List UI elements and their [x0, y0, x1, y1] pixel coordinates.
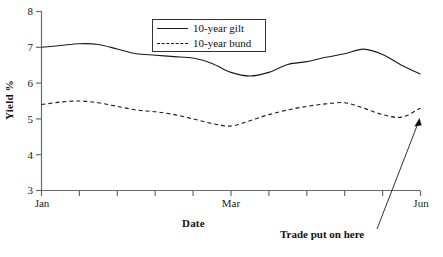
y-tick-label-8: 8 [19, 6, 33, 17]
y-tick-label-5: 5 [19, 114, 33, 125]
x-axis-ticks [42, 191, 421, 197]
chart-container: 8 7 6 5 4 3 Jan Mar Jun Yield % Date 10-… [0, 0, 443, 257]
y-tick-label-7: 7 [19, 42, 33, 53]
legend-label-10-year-gilt: 10-year gilt [193, 23, 244, 34]
annotation-label-trade-put-on-here: Trade put on here [280, 228, 364, 240]
y-tick-label-3: 3 [19, 185, 33, 196]
legend-item-10-year-bund: 10-year bund [157, 36, 251, 51]
x-tick-label-jun: Jun [407, 198, 435, 209]
y-axis-ticks [36, 12, 41, 191]
chart-legend: 10-year gilt 10-year bund [152, 19, 266, 52]
legend-swatch-dashed-icon [157, 43, 188, 44]
legend-item-10-year-gilt: 10-year gilt [157, 21, 244, 36]
x-tick-label-jan: Jan [28, 198, 56, 209]
x-tick-label-mar: Mar [217, 198, 245, 209]
legend-swatch-solid-icon [157, 28, 188, 29]
legend-label-10-year-bund: 10-year bund [193, 38, 251, 49]
y-tick-label-6: 6 [19, 78, 33, 89]
x-axis-title: Date [182, 217, 205, 229]
annotation-arrow [377, 118, 422, 229]
y-tick-label-4: 4 [19, 150, 33, 161]
series-line-10-year-bund [42, 101, 421, 126]
y-axis-title: Yield % [3, 74, 15, 126]
